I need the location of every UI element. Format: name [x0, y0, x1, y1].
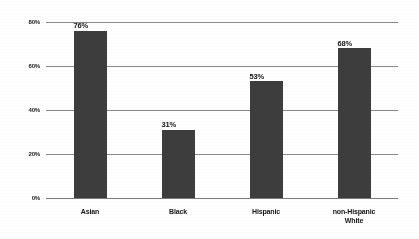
- bar-item[interactable]: 68%: [338, 22, 371, 198]
- y-axis-tick-label: 20%: [10, 151, 40, 157]
- plot-area: 76%31%53%68%: [46, 22, 398, 198]
- bar-value-label: 76%: [74, 22, 88, 30]
- bar-item[interactable]: 53%: [250, 22, 283, 198]
- bar-item[interactable]: 76%: [74, 22, 107, 198]
- category-label: Black: [134, 207, 222, 216]
- category-label: non-HispanicWhite: [310, 207, 398, 226]
- y-axis-tick-label: 80%: [10, 19, 40, 25]
- bar[interactable]: [338, 48, 371, 198]
- bar-chart: 0%20%40%60%80% 76%31%53%68% AsianBlackHi…: [0, 0, 419, 239]
- y-axis-tick-label: 40%: [10, 107, 40, 113]
- bar[interactable]: [162, 130, 195, 198]
- category-label: Hispanic: [222, 207, 310, 216]
- bar-item[interactable]: 31%: [162, 22, 195, 198]
- y-axis-tick-label: 60%: [10, 63, 40, 69]
- bar[interactable]: [250, 81, 283, 198]
- bar-value-label: 53%: [250, 73, 264, 81]
- gridline: [46, 198, 398, 199]
- bar-value-label: 68%: [338, 40, 352, 48]
- category-label: Asian: [46, 207, 134, 216]
- y-axis-tick-label: 0%: [10, 195, 40, 201]
- bar-value-label: 31%: [162, 121, 176, 129]
- bar[interactable]: [74, 31, 107, 198]
